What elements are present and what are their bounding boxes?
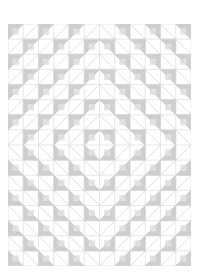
diagonal-line bbox=[130, 85, 145, 100]
diagonal-line bbox=[115, 39, 130, 54]
diagonal-line bbox=[176, 100, 191, 115]
diagonal-line bbox=[39, 145, 54, 160]
diagonal-line bbox=[130, 24, 145, 39]
diagonal-line bbox=[69, 145, 84, 160]
diagonal-line bbox=[23, 54, 38, 69]
diagonal-line bbox=[69, 236, 84, 251]
diagonal-line bbox=[69, 206, 84, 221]
diagonal-line bbox=[39, 130, 54, 145]
diagonal-line bbox=[145, 100, 160, 115]
diagonal-line bbox=[145, 175, 160, 190]
diagonal-line bbox=[130, 221, 145, 236]
diagonal-line bbox=[8, 39, 23, 54]
diagonal-line bbox=[69, 100, 84, 115]
diagonal-line bbox=[130, 251, 145, 266]
diagonal-line bbox=[8, 175, 23, 190]
diagonal-line bbox=[100, 190, 115, 205]
diagonal-line bbox=[54, 160, 69, 175]
diagonal-line bbox=[115, 69, 130, 84]
diagonal-line bbox=[145, 69, 160, 84]
diagonal-line bbox=[100, 85, 115, 100]
diagonal-line bbox=[8, 130, 23, 145]
diagonal-line bbox=[100, 24, 115, 39]
diagonal-line bbox=[8, 236, 23, 251]
diagonal-line bbox=[161, 24, 176, 39]
diagonal-line bbox=[69, 39, 84, 54]
diagonal-line bbox=[145, 145, 160, 160]
diagonal-line bbox=[23, 251, 38, 266]
diagonal-line bbox=[176, 206, 191, 221]
diagonal-line bbox=[39, 206, 54, 221]
diagonal-line bbox=[176, 145, 191, 160]
diagonal-line bbox=[69, 69, 84, 84]
diagonal-line bbox=[23, 24, 38, 39]
diagonal-line bbox=[145, 130, 160, 145]
diagonal-line bbox=[23, 190, 38, 205]
diagonal-line bbox=[176, 236, 191, 251]
diagonal-line bbox=[161, 54, 176, 69]
diagonal-line bbox=[145, 236, 160, 251]
diagonal-line bbox=[115, 145, 130, 160]
diagonal-line bbox=[130, 190, 145, 205]
diagonal-line bbox=[115, 130, 130, 145]
diagonal-line bbox=[69, 175, 84, 190]
diagonal-line bbox=[145, 206, 160, 221]
diagonal-line bbox=[54, 115, 69, 130]
diagonal-line bbox=[100, 160, 115, 175]
diagonal-line bbox=[23, 160, 38, 175]
diagonal-line bbox=[161, 115, 176, 130]
diagonal-line bbox=[115, 100, 130, 115]
diagonal-line bbox=[39, 236, 54, 251]
diagonal-line bbox=[130, 115, 145, 130]
diagonal-line bbox=[130, 160, 145, 175]
diagonal-line bbox=[84, 160, 99, 175]
diagonal-line bbox=[161, 251, 176, 266]
diagonal-line bbox=[84, 221, 99, 236]
diagonal-line bbox=[115, 175, 130, 190]
diagonal-line bbox=[115, 236, 130, 251]
diagonal-line bbox=[23, 115, 38, 130]
diagonal-line bbox=[161, 160, 176, 175]
diagonal-line bbox=[23, 221, 38, 236]
diagonal-line bbox=[145, 39, 160, 54]
diagonal-line bbox=[161, 221, 176, 236]
diagonal-line bbox=[54, 190, 69, 205]
diagonal-line bbox=[39, 69, 54, 84]
diagonal-line bbox=[39, 39, 54, 54]
diagonal-line bbox=[54, 24, 69, 39]
diagonal-line bbox=[54, 251, 69, 266]
diagonal-line bbox=[54, 54, 69, 69]
diagonal-line bbox=[69, 130, 84, 145]
diagonal-line bbox=[84, 190, 99, 205]
diagonal-line bbox=[176, 39, 191, 54]
diagonal-line bbox=[161, 85, 176, 100]
diagonal-line bbox=[161, 190, 176, 205]
diagonal-line bbox=[176, 175, 191, 190]
diagonal-line bbox=[23, 85, 38, 100]
diagonal-line bbox=[100, 54, 115, 69]
diagonal-line bbox=[39, 100, 54, 115]
diagonal-line bbox=[130, 54, 145, 69]
diagonal-line bbox=[115, 206, 130, 221]
diagonal-line bbox=[8, 69, 23, 84]
diagonal-line bbox=[100, 221, 115, 236]
diagonal-line bbox=[176, 69, 191, 84]
diagonal-line bbox=[84, 115, 99, 130]
diagonal-line bbox=[8, 206, 23, 221]
diagonal-line bbox=[100, 115, 115, 130]
diagonal-line bbox=[8, 145, 23, 160]
quilt-diagram bbox=[8, 24, 191, 266]
diagonal-line bbox=[84, 85, 99, 100]
diagonal-line bbox=[84, 54, 99, 69]
diagonal-line bbox=[84, 24, 99, 39]
diagonal-line bbox=[84, 251, 99, 266]
diagonal-line bbox=[39, 175, 54, 190]
diagonal-line bbox=[54, 85, 69, 100]
diagonal-line bbox=[176, 130, 191, 145]
diagonal-line bbox=[100, 251, 115, 266]
diagonal-line bbox=[54, 221, 69, 236]
diagonal-line bbox=[8, 100, 23, 115]
